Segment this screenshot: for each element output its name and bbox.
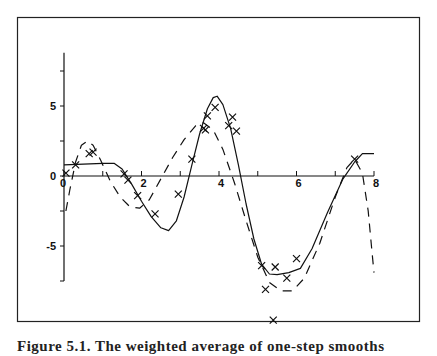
data-point-marker	[152, 210, 159, 217]
figure-caption: Figure 5.1. The weighted average of one-…	[17, 338, 385, 355]
y-tick-label: -5	[46, 240, 56, 252]
figure-frame	[18, 18, 420, 322]
data-point-marker	[202, 126, 209, 133]
x-tick-label: 4	[218, 177, 225, 189]
data-point-marker	[188, 156, 195, 163]
x-tick-label: 2	[140, 177, 146, 189]
y-tick-label: 5	[50, 100, 56, 112]
fit-dashed-curve	[66, 123, 374, 291]
data-point-marker	[283, 275, 290, 282]
data-point-marker	[175, 191, 182, 198]
data-point-marker	[233, 128, 240, 135]
plot-area: 02468-505	[46, 53, 379, 324]
data-point-marker	[262, 286, 269, 293]
data-point-marker	[272, 264, 279, 271]
x-tick-label: 6	[295, 177, 301, 189]
data-point-marker	[212, 104, 219, 111]
x-tick-label: 0	[60, 177, 66, 189]
data-point-marker	[229, 114, 236, 121]
y-tick-label: 0	[50, 170, 56, 182]
data-point-marker	[270, 317, 277, 324]
x-tick-label: 8	[373, 177, 379, 189]
data-point-marker	[293, 255, 300, 262]
data-point-marker	[134, 192, 141, 199]
